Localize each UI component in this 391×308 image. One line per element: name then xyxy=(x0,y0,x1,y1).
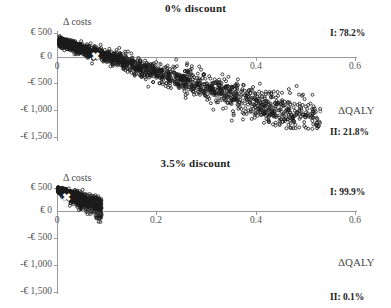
scatter-plot-bottom xyxy=(0,154,391,308)
mean-marker-bottom: ✖ xyxy=(62,192,71,203)
scatter-plot-top xyxy=(0,0,391,154)
chart-panel-bottom: 3.5% discount Δ costs ΔQALY I: 99.9% II:… xyxy=(0,154,391,308)
mean-marker-top: ✖ xyxy=(91,51,100,62)
chart-panel-top: 0% discount Δ costs ΔQALY I: 78.2% II: 2… xyxy=(0,0,391,154)
